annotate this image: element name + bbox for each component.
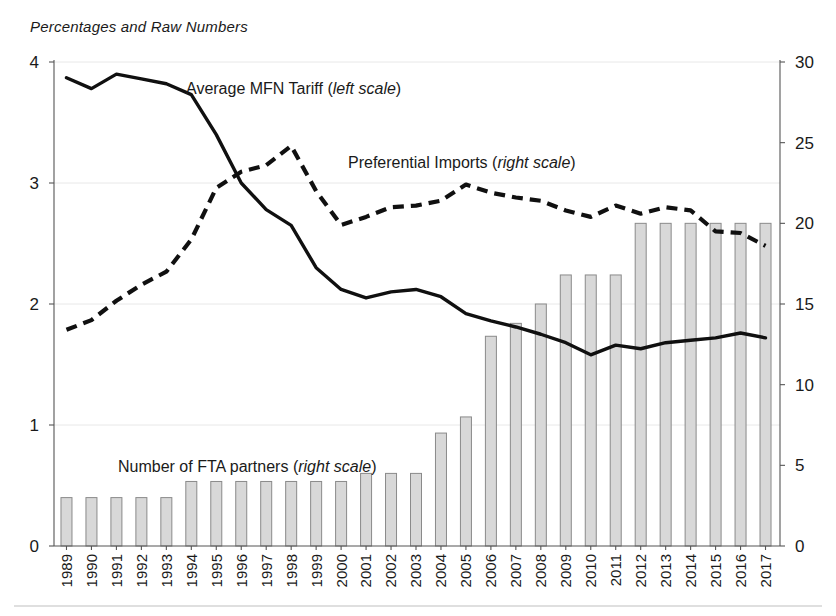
right-tick-label-0: 0	[795, 537, 804, 556]
year-label-1991: 1991	[108, 554, 125, 587]
figure-subtitle: Percentages and Raw Numbers	[30, 18, 248, 35]
year-label-2001: 2001	[357, 554, 374, 587]
bar-2010	[585, 275, 596, 546]
bar-1989	[61, 498, 72, 546]
year-label-1999: 1999	[308, 554, 325, 587]
year-label-2000: 2000	[333, 554, 350, 587]
right-tick-label-10: 10	[795, 376, 814, 395]
year-label-2012: 2012	[632, 554, 649, 587]
year-label-1995: 1995	[208, 554, 225, 587]
bar-2005	[460, 417, 471, 546]
bar-1993	[161, 498, 172, 546]
year-label-2003: 2003	[407, 554, 424, 587]
year-label-2009: 2009	[557, 554, 574, 587]
series-label-average-mfn-tariff: Average MFN Tariff (left scale)	[186, 80, 401, 97]
right-tick-label-30: 30	[795, 53, 814, 72]
bar-1998	[286, 481, 297, 546]
bar-1992	[136, 498, 147, 546]
bar-2017	[760, 223, 771, 546]
year-label-2008: 2008	[532, 554, 549, 587]
bar-2011	[610, 275, 621, 546]
year-label-2006: 2006	[482, 554, 499, 587]
year-label-1996: 1996	[233, 554, 250, 587]
year-label-1989: 1989	[58, 554, 75, 587]
left-tick-label-4: 4	[30, 53, 39, 72]
chart-figure: Percentages and Raw Numbers 01234 051015…	[0, 0, 836, 616]
right-tick-label-5: 5	[795, 456, 804, 475]
bar-1995	[211, 481, 222, 546]
year-label-1994: 1994	[183, 554, 200, 587]
bar-2013	[660, 223, 671, 546]
bar-1997	[261, 481, 272, 546]
year-label-2010: 2010	[582, 554, 599, 587]
bar-2003	[411, 473, 422, 546]
year-label-2016: 2016	[732, 554, 749, 587]
year-label-1992: 1992	[133, 554, 150, 587]
right-axis-tick-labels: 051015202530	[780, 53, 814, 556]
bar-2006	[485, 336, 496, 546]
left-tick-label-2: 2	[30, 295, 39, 314]
year-label-2005: 2005	[457, 554, 474, 587]
year-label-1997: 1997	[258, 554, 275, 587]
year-label-2015: 2015	[707, 554, 724, 587]
bar-2009	[560, 275, 571, 546]
chart-canvas: 01234 051015202530 198919901991199219931…	[0, 0, 836, 616]
series-label-fta-partners: Number of FTA partners (right scale)	[118, 458, 376, 475]
bar-1990	[86, 498, 97, 546]
year-label-2013: 2013	[657, 554, 674, 587]
year-label-2017: 2017	[757, 554, 774, 587]
right-tick-label-25: 25	[795, 134, 814, 153]
bar-2007	[510, 323, 521, 546]
year-label-1998: 1998	[283, 554, 300, 587]
right-tick-label-15: 15	[795, 295, 814, 314]
bar-2012	[635, 223, 646, 546]
year-label-2011: 2011	[607, 554, 624, 586]
year-label-1993: 1993	[158, 554, 175, 587]
right-tick-label-20: 20	[795, 214, 814, 233]
year-label-2002: 2002	[382, 554, 399, 587]
bar-1994	[186, 481, 197, 546]
bar-2002	[386, 473, 397, 546]
bar-2001	[361, 473, 372, 546]
bar-2008	[535, 304, 546, 546]
year-label-2004: 2004	[432, 554, 449, 587]
bar-2014	[685, 223, 696, 546]
bar-2000	[336, 481, 347, 546]
bar-1999	[311, 481, 322, 546]
year-label-2007: 2007	[507, 554, 524, 587]
bar-2016	[735, 223, 746, 546]
bar-2004	[435, 433, 446, 546]
left-axis-tick-labels: 01234	[30, 53, 54, 556]
bar-1991	[111, 498, 122, 546]
series-label-preferential-imports: Preferential Imports (right scale)	[348, 154, 576, 171]
bar-2015	[710, 223, 721, 546]
left-tick-label-1: 1	[30, 416, 39, 435]
bar-1996	[236, 481, 247, 546]
left-tick-label-0: 0	[30, 537, 39, 556]
year-label-2014: 2014	[682, 554, 699, 587]
left-tick-label-3: 3	[30, 174, 39, 193]
x-axis-year-labels: 1989199019911992199319941995199619971998…	[58, 546, 774, 587]
year-label-1990: 1990	[83, 554, 100, 587]
